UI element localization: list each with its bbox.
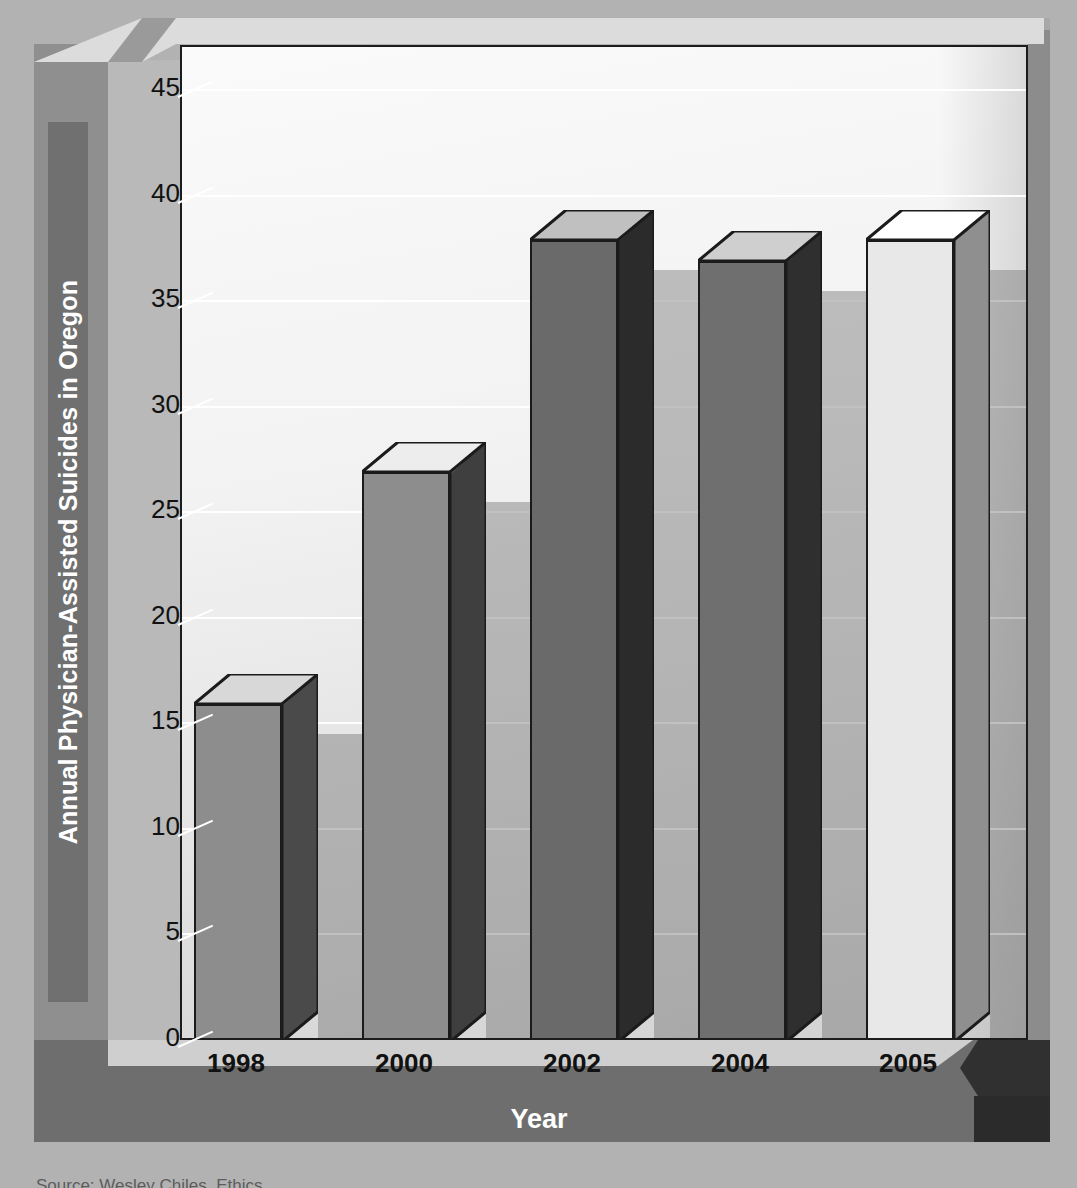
source-note: Source: Wesley Chiles, Ethics [36, 1176, 262, 1188]
bar-series [182, 47, 1028, 1040]
bar-shadow [990, 270, 1028, 1040]
x-axis-title: Year [34, 1096, 1044, 1142]
y-axis-title: Annual Physician-Assisted Suicides in Or… [48, 122, 88, 1002]
bar-side-face [786, 231, 822, 1040]
bar-front-face [530, 240, 618, 1040]
bar-side-face [954, 210, 990, 1040]
chart-figure: 051015202530354045 Annual Physician-Assi… [0, 0, 1077, 1188]
bar-front-face [866, 240, 954, 1040]
x-axis-title-corner [974, 1096, 1050, 1142]
y-axis-tick-label: 45 [65, 72, 180, 103]
x-axis-tick-label: 2005 [818, 1048, 998, 1079]
bar-front-face [194, 704, 282, 1040]
bar-side-face [282, 674, 318, 1040]
plot-area [180, 45, 1028, 1040]
x-axis-tick-label: 2000 [314, 1048, 494, 1079]
bar-side-face [450, 442, 486, 1040]
bar-2000[interactable] [362, 472, 450, 1040]
frame-right-wall [1028, 30, 1050, 1060]
y-axis-title-band: Annual Physician-Assisted Suicides in Or… [0, 0, 40, 1188]
bar-1998[interactable] [194, 704, 282, 1040]
x-axis-tick-label: 2002 [482, 1048, 662, 1079]
x-axis-tick-label: 1998 [146, 1048, 326, 1079]
bar-side-face [618, 210, 654, 1040]
x-axis-labels: 19982000200220042005 [0, 1048, 1077, 1088]
bar-front-face [698, 261, 786, 1040]
bar-2004[interactable] [698, 261, 786, 1040]
x-axis-tick-label: 2004 [650, 1048, 830, 1079]
bar-2005[interactable] [866, 240, 954, 1040]
bar-front-face [362, 472, 450, 1040]
bar-2002[interactable] [530, 240, 618, 1040]
